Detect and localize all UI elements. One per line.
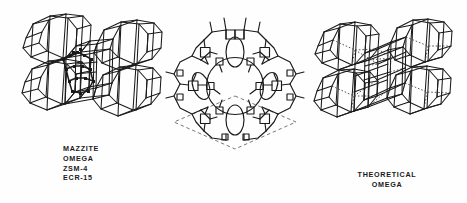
mazzite-framework-3d-diagram [2,4,172,144]
caption-line-omega-theoretical: OMEGA [352,180,422,190]
channel-projection-2d-diagram [160,4,310,154]
caption-mazzite-group: MAZZITE OMEGA ZSM-4 ECR-15 [63,144,99,183]
caption-line-omega: OMEGA [63,154,99,164]
theoretical-omega-framework-3d-diagram [300,6,465,151]
framework-rings [166,18,304,140]
caption-line-ecr15: ECR-15 [63,173,99,183]
caption-line-mazzite: MAZZITE [63,144,99,154]
zeolite-structure-figure: MAZZITE OMEGA ZSM-4 ECR-15 THEORETICAL O… [0,0,467,203]
caption-theoretical-omega-group: THEORETICAL OMEGA [352,170,422,190]
caption-line-zsm4: ZSM-4 [63,164,99,174]
unit-cell-outline [174,96,296,149]
theoretical-omega-svg [300,6,465,151]
channel-projection-svg [160,4,310,154]
caption-line-theoretical: THEORETICAL [352,170,422,180]
mazzite-framework-svg [2,4,172,144]
